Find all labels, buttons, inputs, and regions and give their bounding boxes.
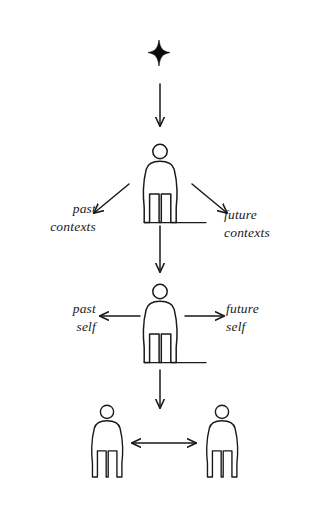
label-past-self: past self xyxy=(22,300,96,336)
four-pointed-star-icon xyxy=(148,40,170,66)
arrow-top-figure-to-future-contexts xyxy=(192,184,227,213)
label-future-contexts-line1: future xyxy=(224,206,314,224)
label-past-self-line2: self xyxy=(22,318,96,336)
label-future-self: future self xyxy=(226,300,306,336)
person-figure-top xyxy=(143,144,206,222)
label-past-self-line1: past xyxy=(22,300,96,318)
label-future-self-line2: self xyxy=(226,318,306,336)
person-figure-bottom-left xyxy=(92,405,123,477)
label-past-contexts: past contexts xyxy=(10,200,96,236)
label-past-contexts-line1: past xyxy=(10,200,96,218)
diagram-canvas: past contexts future contexts past self … xyxy=(0,0,317,532)
person-figure-bottom-right xyxy=(207,405,238,477)
label-future-self-line1: future xyxy=(226,300,306,318)
diagram-graphics xyxy=(0,0,317,532)
label-future-contexts: future contexts xyxy=(224,206,314,242)
arrow-top-figure-to-past-contexts xyxy=(94,184,129,213)
label-past-contexts-line2: contexts xyxy=(10,218,96,236)
label-future-contexts-line2: contexts xyxy=(224,224,314,242)
person-figure-middle xyxy=(143,284,206,362)
